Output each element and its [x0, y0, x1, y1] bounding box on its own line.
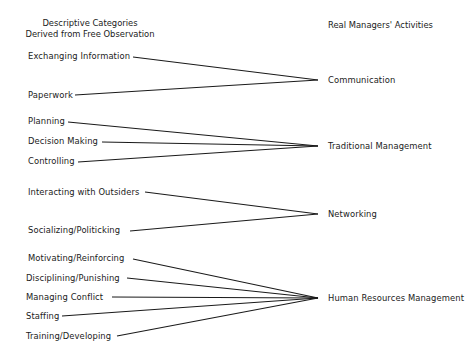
category-disciplining-punishing: Disciplining/Punishing: [26, 273, 120, 283]
connector-training-developing: [117, 298, 318, 336]
activity-traditional-management: Traditional Management: [328, 141, 432, 151]
category-staffing: Staffing: [26, 311, 59, 321]
connector-paperwork: [75, 80, 318, 95]
category-managing-conflict: Managing Conflict: [26, 292, 103, 302]
category-socializing-politicking: Socializing/Politicking: [28, 225, 120, 235]
connector-socializing-politicking: [130, 214, 318, 231]
connector-motivating-reinforcing: [133, 259, 318, 298]
category-planning: Planning: [28, 116, 65, 126]
category-paperwork: Paperwork: [28, 90, 73, 100]
category-exchanging-information: Exchanging Information: [28, 51, 130, 61]
activity-networking: Networking: [328, 209, 377, 219]
connector-exchanging-information: [133, 57, 318, 80]
connector-controlling: [78, 146, 318, 162]
connector-disciplining-punishing: [127, 278, 318, 298]
category-controlling: Controlling: [28, 156, 75, 166]
category-training-developing: Training/Developing: [26, 331, 111, 341]
activity-communication: Communication: [328, 75, 395, 85]
connector-interacting-with-outsiders: [145, 192, 318, 214]
category-decision-making: Decision Making: [28, 136, 98, 146]
activity-human-resources-management: Human Resources Management: [328, 293, 464, 303]
category-interacting-with-outsiders: Interacting with Outsiders: [28, 187, 139, 197]
category-motivating-reinforcing: Motivating/Reinforcing: [28, 253, 124, 263]
connector-managing-conflict: [112, 297, 318, 298]
